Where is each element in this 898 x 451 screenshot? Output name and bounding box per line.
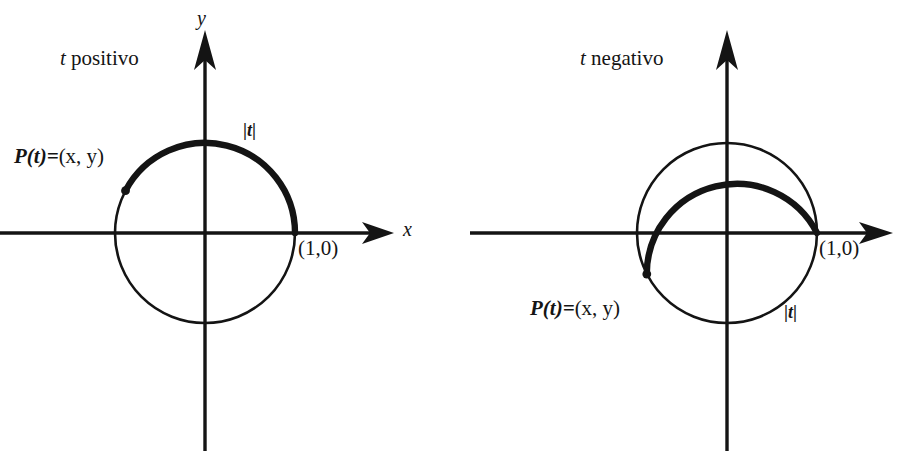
x-axis-label-positive: x	[403, 219, 412, 239]
point-label-name: P(t)=	[530, 296, 575, 320]
intercept-label-positive: (1,0)	[298, 238, 338, 259]
sign-label-positive: t positivo	[60, 48, 139, 69]
abs-bar-right: |	[793, 302, 797, 322]
diagram-negative	[449, 0, 898, 451]
arc-highlight-positive	[126, 143, 296, 233]
sign-label-variable: t	[60, 46, 66, 70]
sign-label-word: negativo	[591, 46, 663, 70]
point-label-negative: P(t)=(x, y)	[530, 298, 620, 319]
sign-label-variable: t	[580, 46, 586, 70]
point-label-coords: (x, y)	[575, 296, 621, 320]
intercept-label-negative: (1,0)	[819, 238, 859, 259]
arc-highlight-negative	[647, 184, 817, 274]
panel-t-positivo: t positivo P(t)=(x, y) |t| (1,0) x y	[0, 0, 449, 451]
arc-length-label-negative: |t|	[784, 303, 797, 321]
point-label-name: P(t)=	[14, 144, 59, 168]
terminal-point-marker	[642, 270, 651, 279]
abs-bar-right: |	[252, 120, 256, 140]
point-label-positive: P(t)=(x, y)	[14, 146, 104, 167]
y-axis-label-positive: y	[197, 8, 206, 28]
point-label-coords: (x, y)	[59, 144, 105, 168]
arc-length-label-positive: |t|	[243, 121, 256, 139]
terminal-point-marker	[121, 186, 130, 195]
unit-circle-figure: t positivo P(t)=(x, y) |t| (1,0) x y	[0, 0, 898, 451]
panel-t-negativo: t negativo P(t)=(x, y) |t| (1,0)	[449, 0, 898, 451]
sign-label-word: positivo	[71, 46, 139, 70]
sign-label-negative: t negativo	[580, 48, 663, 69]
